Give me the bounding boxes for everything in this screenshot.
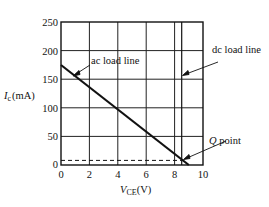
svg-text:4: 4 [115,169,121,180]
svg-text:100: 100 [42,103,58,114]
svg-text:0: 0 [58,169,63,180]
svg-text:8: 8 [172,169,177,180]
svg-text:2: 2 [87,169,92,180]
svg-text:150: 150 [42,74,58,85]
svg-text:10: 10 [198,169,209,180]
y-axis-label: Ic(mA) [3,90,35,103]
svg-text:6: 6 [144,169,149,180]
x-tick-labels: 0 2 4 6 8 10 [58,169,208,180]
y-tick-labels: 250 200 150 100 50 0 [42,17,58,170]
dc-load-line-label: dc load line [212,44,261,55]
load-line-chart: 250 200 150 100 50 0 0 2 4 6 8 10 Ic(mA)… [0,0,269,207]
ac-load-line [61,65,189,165]
svg-text:50: 50 [48,131,59,142]
svg-text:0: 0 [53,159,58,170]
ac-load-line-label: ac load line [91,55,140,66]
q-point-label: Q point [209,135,241,146]
svg-text:250: 250 [42,17,58,28]
x-axis-label: VCE(V) [120,184,152,197]
svg-text:200: 200 [42,46,58,57]
